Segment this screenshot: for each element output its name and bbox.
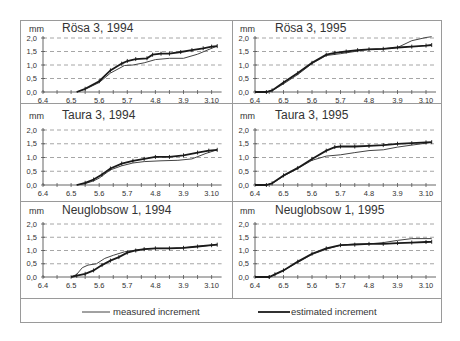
x-tick-label: 6.4 [250,189,260,198]
x-tick-label: 4.8 [364,281,374,290]
measured-line [77,46,218,92]
x-tick-label: 5.7 [122,189,132,198]
estimated-line [255,242,432,277]
x-tick-label: 4.8 [150,281,160,290]
x-tick-label: 3.9 [178,96,188,105]
x-tick-label: 3.10 [419,281,434,290]
y-tick-label: 0,5 [27,167,37,176]
estimated-line [255,142,432,185]
y-tick-label: 0,5 [239,259,249,268]
y-tick-label: 1,0 [239,153,249,162]
y-tick-label: 1,5 [239,47,249,56]
x-tick-label: 6.5 [278,96,288,105]
measured-line [255,142,432,185]
y-tick-label: 1,0 [239,61,249,70]
y-tick-label: 1,0 [239,246,249,255]
x-tick-label: 4.8 [150,189,160,198]
y-unit-label: mm [29,206,44,216]
x-tick-label: 6.5 [278,281,288,290]
x-tick-label: 3.10 [419,189,434,198]
estimated-line [77,46,218,92]
chart-title: Neuglobsow 1, 1995 [275,203,385,217]
chart-title: Taura 3, 1994 [62,108,136,122]
y-tick-label: 2,0 [239,34,249,43]
y-tick-label: 2,0 [27,126,37,135]
y-unit-label: mm [240,111,255,121]
chart-panel: 0,00,51,01,52,06.46.55.65.74.83.93.10mmT… [27,108,222,198]
x-tick-label: 5.6 [307,189,317,198]
measured-line [77,150,218,185]
x-tick-label: 6.4 [250,96,260,105]
y-unit-label: mm [29,24,44,34]
x-tick-label: 4.8 [364,189,374,198]
y-tick-label: 0,0 [239,273,249,282]
x-tick-label: 3.9 [392,281,402,290]
x-tick-label: 6.5 [278,189,288,198]
chart-title: Rösa 3, 1994 [62,21,134,35]
y-tick-label: 1,5 [27,139,37,148]
chart-title: Rösa 3, 1995 [275,21,347,35]
x-tick-label: 5.7 [335,189,345,198]
y-tick-label: 0,5 [27,259,37,268]
x-tick-label: 6.4 [38,189,48,198]
chart-title: Neuglobsow 1, 1994 [62,203,172,217]
x-tick-label: 5.7 [335,281,345,290]
legend: measured increment estimated increment [82,306,377,317]
chart-title: Taura 3, 1995 [275,108,349,122]
y-unit-label: mm [240,24,255,34]
y-tick-label: 2,0 [239,126,249,135]
chart-panel: 0,00,51,01,52,06.46.55.65.74.83.93.10mmR… [239,21,436,105]
y-tick-label: 1,0 [27,61,37,70]
y-tick-label: 0,0 [27,181,37,190]
chart-panel: 0,00,51,01,52,06.46.55.65.74.83.93.10mmN… [239,203,436,290]
x-tick-label: 5.7 [122,281,132,290]
y-tick-label: 2,0 [27,220,37,229]
x-tick-label: 6.5 [66,96,76,105]
y-tick-label: 1,0 [27,246,37,255]
y-tick-label: 0,5 [27,74,37,83]
x-tick-label: 3.9 [178,281,188,290]
y-tick-label: 1,5 [27,47,37,56]
x-tick-label: 3.9 [392,96,402,105]
x-tick-label: 6.5 [66,189,76,198]
x-tick-label: 4.8 [364,96,374,105]
x-tick-label: 4.8 [150,96,160,105]
x-tick-label: 3.9 [392,189,402,198]
estimated-line [255,45,432,92]
y-tick-label: 0,5 [239,167,249,176]
x-tick-label: 6.4 [250,281,260,290]
y-unit-label: mm [240,206,255,216]
x-tick-label: 5.6 [307,96,317,105]
y-tick-label: 2,0 [239,220,249,229]
y-tick-label: 0,0 [239,181,249,190]
chart-panel: 0,00,51,01,52,06.46.55.65.74.83.93.10mmT… [239,108,436,198]
x-tick-label: 5.7 [335,96,345,105]
y-tick-label: 0,0 [27,88,37,97]
estimated-line [77,150,218,185]
y-tick-label: 0,0 [239,88,249,97]
x-tick-label: 5.6 [94,189,104,198]
x-tick-label: 6.4 [38,96,48,105]
y-tick-label: 1,0 [27,153,37,162]
legend-measured-label: measured increment [113,306,200,317]
y-tick-label: 1,5 [239,139,249,148]
x-tick-label: 6.5 [66,281,76,290]
x-tick-label: 3.10 [204,189,219,198]
x-tick-label: 3.10 [204,281,219,290]
y-tick-label: 1,5 [239,233,249,242]
y-tick-label: 2,0 [27,34,37,43]
x-tick-label: 3.10 [204,96,219,105]
y-unit-label: mm [29,111,44,121]
x-tick-label: 5.6 [94,281,104,290]
x-tick-label: 6.4 [38,281,48,290]
x-tick-label: 5.6 [307,281,317,290]
y-tick-label: 0,0 [27,273,37,282]
x-tick-label: 3.10 [419,96,434,105]
figure: 0,00,51,01,52,06.46.55.65.74.83.93.10mmR… [0,0,460,341]
x-tick-label: 5.6 [94,96,104,105]
x-tick-label: 5.7 [122,96,132,105]
chart-panel: 0,00,51,01,52,06.46.55.65.74.83.93.10mmR… [27,21,222,105]
y-tick-label: 0,5 [239,74,249,83]
y-tick-label: 1,5 [27,233,37,242]
chart-panel: 0,00,51,01,52,06.46.55.65.74.83.93.10mmN… [27,203,222,290]
